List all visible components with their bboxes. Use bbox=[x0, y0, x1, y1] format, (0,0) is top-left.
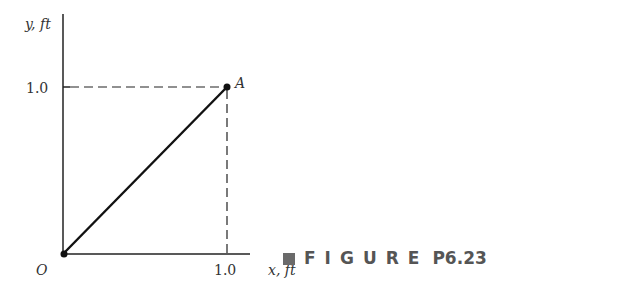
point-O bbox=[61, 251, 68, 258]
point-A-label: A bbox=[233, 75, 245, 91]
x-tick-label: 1.0 bbox=[214, 262, 236, 278]
point-A bbox=[224, 84, 231, 91]
caption-square-icon bbox=[283, 253, 295, 265]
origin-label: O bbox=[36, 262, 48, 278]
line-OA bbox=[65, 88, 226, 252]
figure-caption: FIGUREP6.23 bbox=[283, 248, 487, 268]
y-tick-label: 1.0 bbox=[26, 80, 48, 96]
caption-number: P6.23 bbox=[432, 248, 486, 268]
caption-word: FIGURE bbox=[304, 248, 428, 268]
y-axis-label: y, ft bbox=[24, 16, 51, 32]
